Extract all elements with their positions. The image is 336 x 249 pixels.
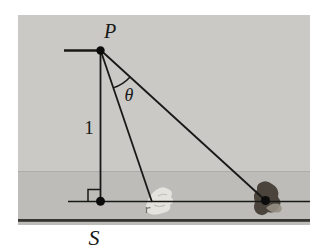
textbook-figure: P θ 1 S xyxy=(0,0,336,249)
far-figure-dot xyxy=(261,196,270,205)
photo-bottom-rule xyxy=(18,219,310,222)
label-side-1: 1 xyxy=(84,117,94,138)
label-angle-theta: θ xyxy=(125,85,134,105)
point-P-dot xyxy=(96,46,104,54)
label-point-P: P xyxy=(103,20,116,42)
label-point-S: S xyxy=(89,225,100,249)
geometry-diagram: P θ 1 S xyxy=(0,0,336,249)
point-S-dot xyxy=(96,197,105,206)
